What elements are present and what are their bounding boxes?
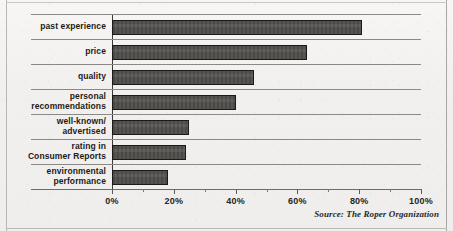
x-axis-tick-label: 100%: [398, 196, 444, 206]
row-separator-line: [31, 164, 421, 165]
chart-screenshot: past experiencepricequalitypersonalrecom…: [0, 0, 453, 231]
x-axis-major-tick: [236, 189, 237, 194]
bar: [112, 170, 168, 185]
category-axis-label-line: advertised: [0, 126, 106, 136]
x-axis-line: [31, 189, 421, 190]
category-axis-label: past experience: [0, 21, 106, 31]
category-axis-label-line: personal: [0, 91, 106, 101]
x-axis-tick-label: 60%: [274, 196, 320, 206]
bar-chart-plot-area: past experiencepricequalitypersonalrecom…: [0, 0, 453, 231]
category-axis-label: rating inConsumer Reports: [0, 141, 106, 161]
x-axis-tick-label: 40%: [213, 196, 259, 206]
x-axis-major-tick: [297, 189, 298, 194]
x-axis-minor-tick: [143, 189, 144, 192]
category-axis-label-line: performance: [0, 176, 106, 186]
row-separator-line: [31, 139, 421, 140]
x-axis-tick-label: 20%: [151, 196, 197, 206]
x-axis-minor-tick: [390, 189, 391, 192]
row-separator-line: [31, 64, 421, 65]
row-separator-line: [31, 89, 421, 90]
bar: [112, 95, 236, 110]
row-separator-line: [31, 14, 421, 15]
x-axis-minor-tick: [205, 189, 206, 192]
category-axis-label-line: quality: [0, 71, 106, 81]
category-axis-label: well-known/advertised: [0, 116, 106, 136]
x-axis-major-tick: [112, 189, 113, 194]
row-separator-line: [31, 39, 421, 40]
bar: [112, 45, 307, 60]
x-axis-major-tick: [421, 189, 422, 194]
x-axis-tick-label: 80%: [336, 196, 382, 206]
bar: [112, 120, 189, 135]
category-axis-label-line: Consumer Reports: [0, 151, 106, 161]
x-axis-minor-tick: [328, 189, 329, 192]
category-axis-label-line: environmental: [0, 166, 106, 176]
bar: [112, 145, 186, 160]
x-axis-major-tick: [174, 189, 175, 194]
category-axis-label-line: past experience: [0, 21, 106, 31]
category-axis-label: personalrecommendations: [0, 91, 106, 111]
bar: [112, 20, 362, 35]
category-axis-label: price: [0, 46, 106, 56]
row-separator-line: [31, 114, 421, 115]
category-axis-label-line: rating in: [0, 141, 106, 151]
x-axis-minor-tick: [267, 189, 268, 192]
category-axis-label: environmentalperformance: [0, 166, 106, 186]
x-axis-tick-label: 0%: [89, 196, 135, 206]
category-axis-label-line: price: [0, 46, 106, 56]
category-axis-label-line: recommendations: [0, 101, 106, 111]
source-attribution: Source: The Roper Organization: [314, 209, 439, 219]
x-axis-major-tick: [359, 189, 360, 194]
category-axis-label-line: well-known/: [0, 116, 106, 126]
category-axis-label: quality: [0, 71, 106, 81]
bar: [112, 70, 254, 85]
